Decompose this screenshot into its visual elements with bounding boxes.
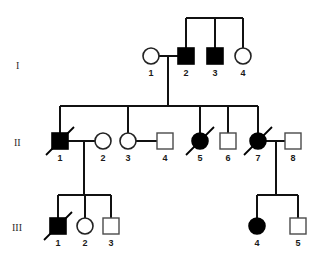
- unaffected-female-circle[interactable]: [235, 48, 251, 64]
- individual-id-label: 2: [100, 153, 105, 163]
- generation-label-I: I: [16, 60, 19, 71]
- individual-id-label: 4: [254, 238, 259, 248]
- generation-label-II: II: [14, 137, 21, 148]
- pedigree-canvas: 12341234567812345 IIIIII: [0, 0, 328, 262]
- individual-id-label: 3: [108, 238, 113, 248]
- individual-id-label: 4: [240, 68, 245, 78]
- individual-id-label: 1: [57, 153, 62, 163]
- unaffected-female-circle[interactable]: [95, 133, 111, 149]
- individual-id-label: 3: [125, 153, 130, 163]
- unaffected-male-square[interactable]: [285, 133, 301, 149]
- individual-id-label: 6: [225, 153, 230, 163]
- individual-id-label: 7: [255, 153, 260, 163]
- generation-label-III: III: [12, 222, 22, 233]
- individual-id-label: 3: [212, 68, 217, 78]
- unaffected-female-circle[interactable]: [77, 218, 93, 234]
- affected-male-square[interactable]: [178, 48, 194, 64]
- unaffected-male-square[interactable]: [103, 218, 119, 234]
- unaffected-female-circle[interactable]: [143, 48, 159, 64]
- unaffected-female-circle[interactable]: [120, 133, 136, 149]
- individual-id-label: 2: [183, 68, 188, 78]
- individual-id-label: 8: [290, 153, 295, 163]
- individual-id-label: 1: [55, 238, 60, 248]
- individual-id-label: 5: [295, 238, 300, 248]
- unaffected-male-square[interactable]: [157, 133, 173, 149]
- affected-male-square[interactable]: [207, 48, 223, 64]
- individual-id-label: 1: [148, 68, 153, 78]
- unaffected-male-square[interactable]: [220, 133, 236, 149]
- individual-id-label: 5: [197, 153, 202, 163]
- unaffected-male-square[interactable]: [290, 218, 306, 234]
- individual-id-label: 2: [82, 238, 87, 248]
- individual-id-label: 4: [162, 153, 167, 163]
- pedigree-chart: 12341234567812345 IIIIII: [0, 0, 328, 262]
- affected-female-circle[interactable]: [249, 218, 265, 234]
